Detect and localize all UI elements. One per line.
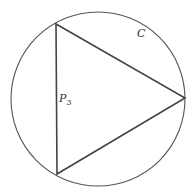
polygon-label-sub: 3 <box>66 98 71 107</box>
diagram-canvas: C P3 <box>0 0 193 192</box>
circle-label: C <box>137 27 146 40</box>
triangle-p3 <box>56 24 185 174</box>
polygon-label: P3 <box>58 92 72 107</box>
circle-c <box>11 12 185 186</box>
